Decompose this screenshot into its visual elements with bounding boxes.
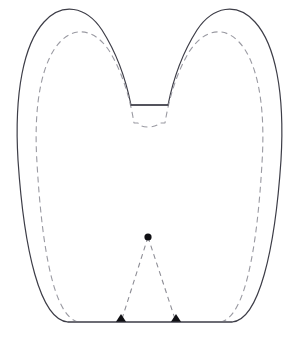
figure-background (0, 0, 297, 338)
figure-container (0, 0, 297, 338)
apex-dot-marker-icon (144, 233, 151, 240)
shape-diagram-svg (0, 0, 297, 338)
